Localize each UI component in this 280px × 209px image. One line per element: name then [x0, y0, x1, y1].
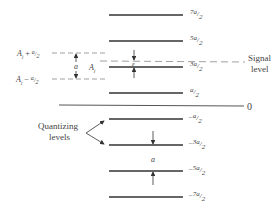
svg-text:−a/2: −a/2 — [188, 112, 202, 125]
quantizing-label: Quantizing — [38, 121, 78, 131]
svg-text:5a/2: 5a/2 — [190, 34, 203, 47]
error-label: ε — [132, 60, 135, 68]
quantizing-pointer-arrows — [86, 121, 104, 144]
step-label: a — [151, 155, 155, 164]
signal-level-label: Signal — [248, 53, 272, 63]
center-label: Aj — [88, 63, 96, 73]
signal-level-label-2: level — [251, 64, 269, 74]
svg-text:−7a/2: −7a/2 — [188, 190, 206, 203]
interval-label: a — [74, 62, 78, 71]
svg-text:7a/2: 7a/2 — [190, 8, 203, 21]
zero-axis-line — [59, 105, 244, 106]
svg-text:−3a/2: −3a/2 — [188, 138, 206, 151]
quantizing-label-2: levels — [49, 132, 70, 142]
svg-text:−5a/2: −5a/2 — [188, 164, 206, 177]
signal-level-line — [100, 61, 245, 62]
svg-text:a/2: a/2 — [190, 86, 199, 99]
upper-bound-label: Aj + a/2 — [16, 49, 39, 59]
zero-label: 0 — [247, 101, 252, 112]
quantizer-diagram: 0 7a/2 5a/2 3a/2 a/2 −a/2 −3a/2 −5a/2 −7… — [0, 0, 280, 209]
lower-bound-label: Aj − a/2 — [15, 75, 38, 85]
